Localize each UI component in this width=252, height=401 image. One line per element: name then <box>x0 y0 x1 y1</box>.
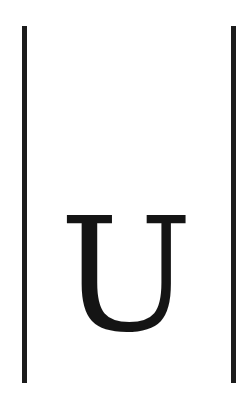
letter-u: U <box>0 196 252 354</box>
right-vertical-bar <box>231 26 236 383</box>
